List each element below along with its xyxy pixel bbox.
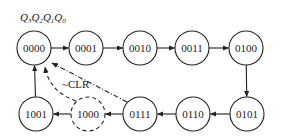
clr-label: ~CLR [62,78,90,90]
state-label: 0100 [235,42,258,54]
state-label: 0001 [75,42,97,54]
state-node: 1000 [71,97,105,131]
state-diagram: Q3Q2Q1Q0 ~CLR 00000001001000110100010101… [0,0,281,139]
state-node: 0001 [69,31,103,65]
state-label: 1001 [25,108,47,120]
state-label: 0111 [129,108,150,120]
state-node: 0111 [123,97,157,131]
state-node: 0010 [123,31,157,65]
state-label: 1000 [77,108,100,120]
state-label: 0010 [129,42,152,54]
state-node: 0110 [176,97,210,131]
transition-arrow [35,65,36,97]
state-label: 0011 [181,42,203,54]
state-label: 0110 [182,108,204,120]
state-label: 0000 [23,42,46,54]
state-label: 0101 [236,108,258,120]
state-node: 0100 [229,31,263,65]
state-node: 0000 [17,31,51,65]
state-node: 0101 [230,97,264,131]
state-node: 1001 [19,97,53,131]
state-variables-label: Q3Q2Q1Q0 [20,11,66,25]
state-node: 0011 [175,31,209,65]
states: 0000000100100011010001010110011110001001 [17,31,264,131]
